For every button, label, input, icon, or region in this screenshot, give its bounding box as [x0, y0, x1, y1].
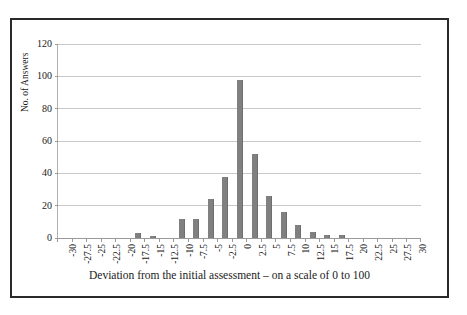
x-tick-mark [159, 238, 160, 242]
x-axis-title: Deviation from the initial assessment – … [12, 268, 447, 282]
x-axis-tick-label: -5 [214, 244, 224, 252]
bar [193, 219, 199, 238]
x-axis-tick-label: 10 [301, 244, 311, 254]
x-tick-mark [188, 238, 189, 242]
bar [237, 80, 243, 238]
bar [252, 154, 258, 238]
x-axis-tick-label: 22.5 [374, 244, 384, 261]
y-axis-tick-label: 0 [47, 233, 52, 243]
x-axis-tick-label: 15 [330, 244, 340, 254]
x-tick-mark [57, 238, 58, 242]
bar [222, 177, 228, 238]
x-axis-tick-label: -30 [68, 244, 78, 257]
bar-series [58, 44, 421, 238]
y-axis-tick-label: 60 [42, 136, 52, 146]
plot-area: 020406080100120 [57, 44, 421, 238]
x-axis-tick-label: -17.5 [141, 244, 151, 264]
x-tick-mark [275, 238, 276, 242]
x-axis-tick-label: 12.5 [316, 244, 326, 261]
x-axis-tick-label: -12.5 [170, 244, 180, 264]
x-axis-tick-label: -27.5 [83, 244, 93, 264]
x-axis-tick-label: -25 [97, 244, 107, 257]
x-axis-tick-label: 30 [418, 244, 428, 254]
x-axis-tick-label: 0 [243, 244, 253, 249]
x-tick-mark [173, 238, 174, 242]
x-tick-mark [217, 238, 218, 242]
x-tick-mark [363, 238, 364, 242]
x-tick-mark [290, 238, 291, 242]
x-axis-tick-label: 17.5 [345, 244, 355, 261]
x-tick-mark [392, 238, 393, 242]
x-axis-tick-label: 5 [272, 244, 282, 249]
x-tick-mark [130, 238, 131, 242]
x-axis-tick-label: -7.5 [199, 244, 209, 259]
y-axis-tick-label: 100 [37, 71, 52, 81]
bar [179, 219, 185, 238]
x-tick-mark [144, 238, 145, 242]
x-tick-mark [319, 238, 320, 242]
x-tick-mark [101, 238, 102, 242]
x-axis-tick-label: -20 [127, 244, 137, 257]
x-axis-tick-label: 2.5 [258, 244, 268, 256]
figure-frame: No. of Answers 020406080100120 -30-27.5-… [10, 18, 449, 298]
x-axis-tick-label: 27.5 [403, 244, 413, 261]
x-axis-tick-label: -2.5 [228, 244, 238, 259]
x-tick-mark [232, 238, 233, 242]
x-axis-ticks [57, 238, 421, 243]
x-tick-mark [261, 238, 262, 242]
y-axis-tick-label: 40 [42, 168, 52, 178]
bar [266, 196, 272, 238]
x-tick-mark [305, 238, 306, 242]
bar [208, 199, 214, 238]
y-axis-tick-label: 80 [42, 104, 52, 114]
bar [295, 225, 301, 238]
x-axis-tick-label: -15 [156, 244, 166, 257]
y-axis-tick-label: 120 [37, 39, 52, 49]
bar [281, 212, 287, 238]
y-axis-title: No. of Answers [20, 53, 30, 112]
x-tick-mark [406, 238, 407, 242]
x-tick-mark [348, 238, 349, 242]
x-tick-mark [115, 238, 116, 242]
x-tick-mark [420, 238, 421, 242]
x-tick-mark [86, 238, 87, 242]
x-axis-tick-label: 25 [389, 244, 399, 254]
x-tick-mark [246, 238, 247, 242]
histogram-chart: No. of Answers 020406080100120 -30-27.5-… [12, 20, 447, 296]
x-tick-mark [377, 238, 378, 242]
y-axis-tick-label: 20 [42, 201, 52, 211]
x-axis-tick-label: 7.5 [287, 244, 297, 256]
x-tick-mark [334, 238, 335, 242]
x-axis-tick-label: 20 [359, 244, 369, 254]
x-axis-tick-label: -22.5 [112, 244, 122, 264]
x-tick-mark [72, 238, 73, 242]
x-tick-mark [203, 238, 204, 242]
x-axis-tick-label: -10 [185, 244, 195, 257]
